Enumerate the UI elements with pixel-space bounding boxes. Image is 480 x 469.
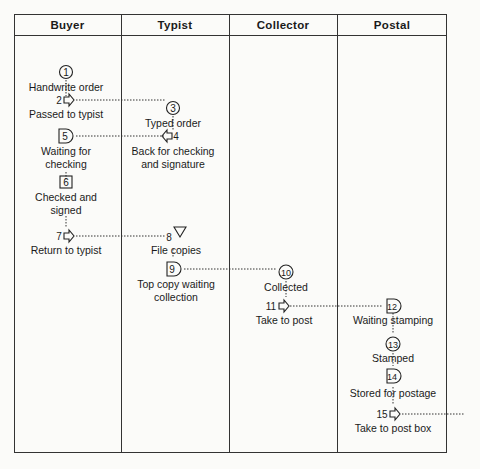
svg-text:10: 10 bbox=[281, 268, 291, 278]
step-label-4a: Back for checking bbox=[132, 145, 215, 157]
svg-text:14: 14 bbox=[387, 372, 397, 382]
svg-text:11: 11 bbox=[266, 301, 277, 312]
svg-text:2: 2 bbox=[56, 95, 62, 106]
svg-text:8: 8 bbox=[166, 232, 172, 243]
step-label-5a: Waiting for bbox=[41, 145, 91, 157]
svg-text:12: 12 bbox=[387, 302, 397, 312]
step-label-5b: checking bbox=[45, 158, 86, 170]
step-label-15: Take to post box bbox=[355, 422, 431, 434]
svg-text:15: 15 bbox=[376, 409, 388, 420]
step-label-4b: and signature bbox=[141, 158, 205, 170]
step-label-8: File copies bbox=[151, 244, 201, 256]
svg-text:5: 5 bbox=[62, 131, 68, 142]
step-label-6b: signed bbox=[51, 204, 82, 216]
process-flow-chart: Buyer Typist Collector Postal bbox=[0, 0, 480, 469]
step-label-13: Stamped bbox=[372, 352, 414, 364]
step-label-7: Return to typist bbox=[31, 244, 102, 256]
svg-text:3: 3 bbox=[170, 103, 176, 114]
step-label-6a: Checked and bbox=[35, 191, 97, 203]
step-label-11: Take to post bbox=[256, 314, 313, 326]
step-label-10: Collected bbox=[264, 281, 308, 293]
step-label-9a: Top copy waiting bbox=[137, 278, 215, 290]
svg-text:7: 7 bbox=[56, 231, 62, 242]
step-label-2: Passed to typist bbox=[29, 108, 103, 120]
svg-text:6: 6 bbox=[63, 177, 69, 188]
step-label-14: Stored for postage bbox=[350, 387, 436, 399]
svg-text:4: 4 bbox=[173, 131, 179, 142]
step-label-1: Handwrite order bbox=[29, 81, 104, 93]
step-label-3: Typed order bbox=[145, 117, 201, 129]
step-label-12: Waiting stamping bbox=[353, 314, 433, 326]
step-number: 1 bbox=[63, 67, 69, 78]
svg-text:13: 13 bbox=[388, 340, 398, 350]
step-label-9b: collection bbox=[154, 291, 198, 303]
svg-text:9: 9 bbox=[169, 264, 175, 275]
